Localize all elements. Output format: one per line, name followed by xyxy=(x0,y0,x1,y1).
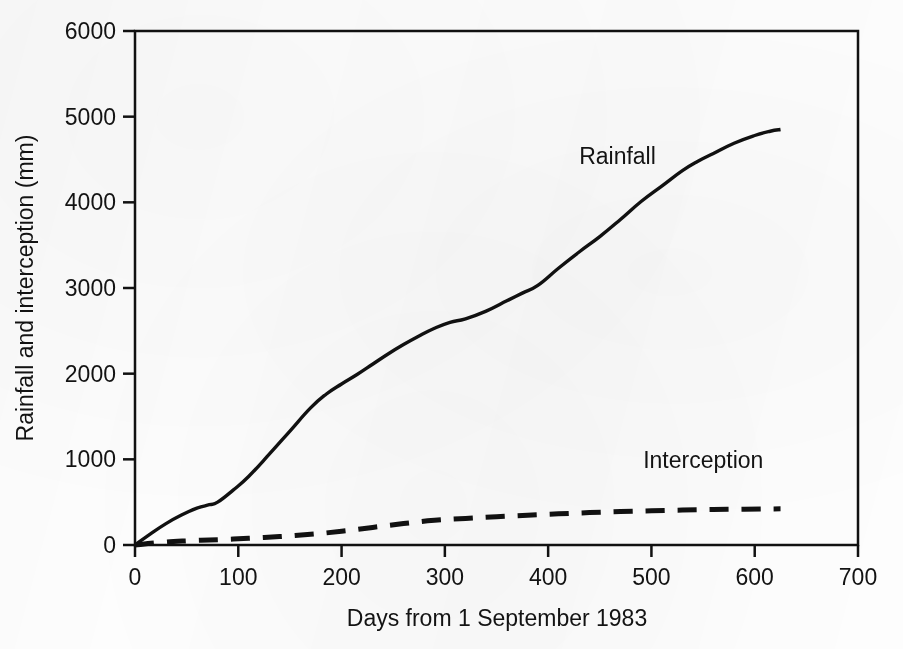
chart-page: 0100020003000400050006000 01002003004005… xyxy=(0,0,903,649)
y-axis-title: Rainfall and interception (mm) xyxy=(12,135,38,442)
series-label-interception: Interception xyxy=(643,447,763,473)
series-line-rainfall xyxy=(135,130,781,545)
rainfall-interception-chart: 0100020003000400050006000 01002003004005… xyxy=(0,0,903,649)
y-axis-tick-labels: 0100020003000400050006000 xyxy=(65,18,116,558)
x-tick-label: 0 xyxy=(129,564,142,590)
y-tick-label: 0 xyxy=(103,532,116,558)
y-tick-label: 4000 xyxy=(65,189,116,215)
y-tick-label: 1000 xyxy=(65,446,116,472)
series-label-rainfall: Rainfall xyxy=(579,143,656,169)
x-tick-label: 200 xyxy=(322,564,360,590)
x-axis-tick-labels: 0100200300400500600700 xyxy=(129,564,878,590)
x-tick-label: 100 xyxy=(219,564,257,590)
x-tick-label: 400 xyxy=(529,564,567,590)
y-tick-label: 2000 xyxy=(65,361,116,387)
y-tick-label: 3000 xyxy=(65,275,116,301)
x-axis-ticks xyxy=(135,545,858,557)
x-axis-title: Days from 1 September 1983 xyxy=(347,605,647,631)
y-tick-label: 6000 xyxy=(65,18,116,44)
x-tick-label: 300 xyxy=(426,564,464,590)
series-annotation-group: RainfallInterception xyxy=(579,143,763,473)
y-tick-label: 5000 xyxy=(65,104,116,130)
x-tick-label: 700 xyxy=(839,564,877,590)
x-tick-label: 500 xyxy=(632,564,670,590)
data-series-group xyxy=(135,130,781,545)
y-axis-ticks xyxy=(123,31,135,545)
series-line-interception xyxy=(135,509,781,545)
x-tick-label: 600 xyxy=(736,564,774,590)
